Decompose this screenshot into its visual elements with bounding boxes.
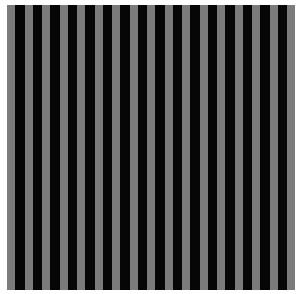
gray-stripe <box>165 5 173 290</box>
gray-stripe <box>7 5 15 290</box>
gray-stripe <box>200 5 208 290</box>
black-stripe <box>155 5 165 290</box>
gray-stripe <box>235 5 243 290</box>
gray-stripe <box>130 5 138 290</box>
gray-stripe <box>42 5 50 290</box>
black-stripe <box>190 5 200 290</box>
black-stripe <box>50 5 60 290</box>
gray-stripe <box>287 5 295 290</box>
black-stripe <box>243 5 253 290</box>
gray-stripe <box>60 5 68 290</box>
gray-stripe <box>25 5 33 290</box>
black-stripe <box>103 5 113 290</box>
black-stripe <box>138 5 148 290</box>
black-stripe <box>15 5 25 290</box>
black-stripe <box>173 5 183 290</box>
black-stripe <box>208 5 218 290</box>
black-stripe <box>120 5 130 290</box>
gray-stripe <box>77 5 85 290</box>
vertical-stripe-pattern <box>7 5 295 290</box>
gray-stripe <box>147 5 155 290</box>
gray-stripe <box>270 5 278 290</box>
black-stripe <box>68 5 78 290</box>
black-stripe <box>278 5 288 290</box>
gray-stripe <box>95 5 103 290</box>
gray-stripe <box>252 5 260 290</box>
black-stripe <box>33 5 43 290</box>
black-stripe <box>225 5 235 290</box>
gray-stripe <box>217 5 225 290</box>
black-stripe <box>85 5 95 290</box>
gray-stripe <box>112 5 120 290</box>
gray-stripe <box>182 5 190 290</box>
black-stripe <box>260 5 270 290</box>
